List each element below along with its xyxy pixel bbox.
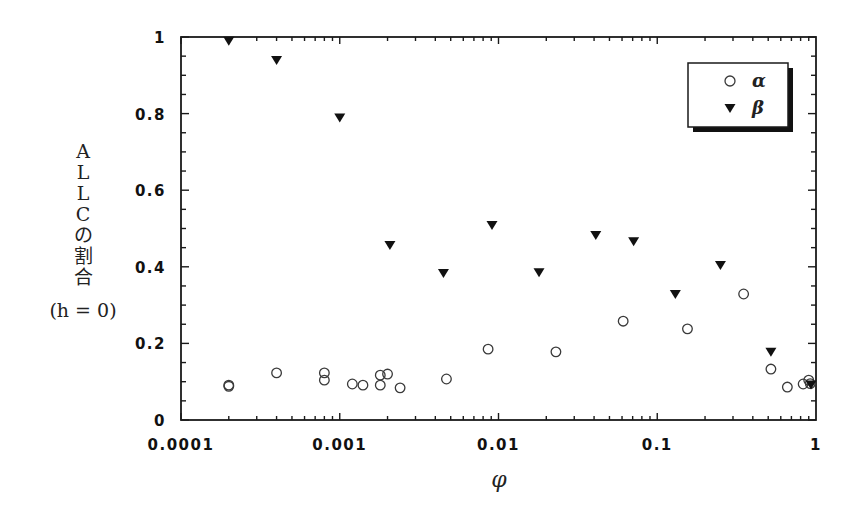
- data-point-triangle: [590, 231, 601, 240]
- data-point-circle: [320, 375, 330, 385]
- data-point-triangle: [628, 237, 639, 246]
- data-point-circle: [348, 379, 358, 389]
- y-tick-label: 1: [154, 29, 166, 47]
- legend-label-alpha: α: [752, 70, 766, 91]
- data-point-circle: [375, 380, 385, 390]
- legend-label-beta: β: [751, 97, 764, 118]
- y-tick-label: 0.4: [135, 259, 166, 277]
- data-point-triangle: [334, 113, 345, 122]
- series-alpha: [224, 289, 815, 392]
- x-tick-label: 0.001: [312, 436, 367, 454]
- y-tick-label: 0: [154, 412, 166, 430]
- y-tick-label: 0.6: [135, 182, 166, 200]
- y-label-subscript: (h = 0): [49, 299, 116, 321]
- data-point-circle: [551, 347, 561, 357]
- data-point-circle: [272, 368, 282, 378]
- data-point-triangle: [486, 221, 497, 230]
- scatter-chart: ALLCの割合(h = 0) 0.00010.0010.010.11 00.20…: [0, 0, 855, 521]
- x-tick-label: 0.0001: [148, 436, 215, 454]
- data-point-circle: [483, 344, 493, 354]
- data-point-triangle: [384, 241, 395, 250]
- y-label-char: A: [75, 140, 90, 162]
- data-point-circle: [442, 374, 452, 384]
- x-tick-label: 1: [810, 436, 822, 454]
- data-point-triangle: [715, 261, 726, 270]
- data-point-circle: [739, 289, 749, 299]
- y-label-char: 割: [74, 245, 93, 267]
- data-point-circle: [358, 380, 368, 390]
- data-point-triangle: [271, 56, 282, 65]
- data-point-circle: [683, 324, 693, 334]
- y-label-char: L: [77, 182, 90, 204]
- y-axis-label: ALLCの割合(h = 0): [49, 140, 116, 321]
- y-label-char: 合: [74, 266, 93, 288]
- x-tick-label: 0.01: [477, 436, 520, 454]
- legend-box: [688, 63, 788, 127]
- y-label-char: C: [76, 203, 91, 225]
- y-tick-label: 0.2: [135, 335, 166, 353]
- data-point-triangle: [765, 348, 776, 357]
- x-tick-label: 0.1: [642, 436, 673, 454]
- y-tick-label: 0.8: [135, 106, 166, 124]
- data-point-triangle: [438, 269, 449, 278]
- x-axis-label: φ: [491, 467, 507, 492]
- data-point-circle: [618, 316, 628, 326]
- data-point-triangle: [223, 37, 234, 46]
- legend: α β: [688, 63, 793, 132]
- data-point-circle: [395, 383, 405, 393]
- data-point-triangle: [534, 268, 545, 277]
- data-point-circle: [783, 382, 793, 392]
- data-point-triangle: [670, 290, 681, 299]
- data-point-circle: [766, 364, 776, 374]
- y-label-char: の: [74, 224, 93, 246]
- y-label-char: L: [77, 161, 90, 183]
- data-point-circle: [383, 369, 393, 379]
